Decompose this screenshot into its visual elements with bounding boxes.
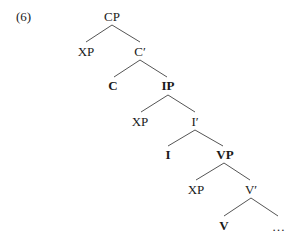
edge-cbar-ip <box>140 60 167 77</box>
node-v: V <box>219 219 228 233</box>
edge-cp-xp <box>86 25 112 42</box>
edge-vp-vbar <box>224 163 250 180</box>
node-xp-spec-vp: XP <box>188 183 205 197</box>
edge-vbar-v <box>224 198 251 216</box>
node-ip: IP <box>162 79 175 93</box>
edge-cbar-c <box>114 60 140 77</box>
node-cp: CP <box>104 10 120 24</box>
node-xp-spec-ip: XP <box>132 115 149 129</box>
edge-vp-xp <box>196 163 224 180</box>
node-i-bar: I′ <box>191 115 198 129</box>
edge-ip-ibar <box>168 95 195 112</box>
node-xp-spec-cp: XP <box>78 45 95 59</box>
edge-cp-cbar <box>112 25 140 42</box>
node-vp: VP <box>216 148 233 162</box>
node-i: I <box>165 148 170 162</box>
edge-ibar-i <box>168 130 195 146</box>
edge-ibar-vp <box>195 130 223 146</box>
node-v-bar: V′ <box>245 183 257 197</box>
edge-ip-xp <box>141 95 168 112</box>
edge-vbar-ellipsis <box>251 198 278 216</box>
node-ellipsis: … <box>272 220 286 234</box>
node-c: C <box>108 79 117 93</box>
node-c-bar: C′ <box>134 45 146 59</box>
